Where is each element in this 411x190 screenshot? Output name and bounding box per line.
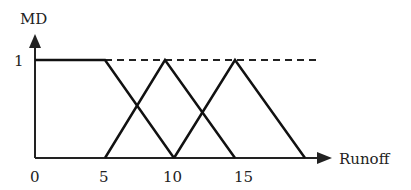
membership-function-3 [174, 60, 305, 158]
x-tick-0: 0 [30, 168, 40, 186]
y-axis-arrow-icon [29, 34, 41, 48]
y-tick-1: 1 [14, 52, 24, 70]
x-axis-arrow-icon [317, 152, 332, 164]
fuzzy-membership-chart: MD 1 0 5 10 15 Runoff [0, 0, 411, 190]
membership-function-1 [35, 60, 174, 158]
x-tick-5: 5 [99, 168, 109, 186]
membership-function-2 [105, 60, 235, 158]
x-tick-15: 15 [234, 168, 253, 186]
y-axis-label: MD [20, 10, 47, 28]
x-tick-10: 10 [163, 168, 182, 186]
x-axis-label: Runoff [339, 150, 391, 168]
